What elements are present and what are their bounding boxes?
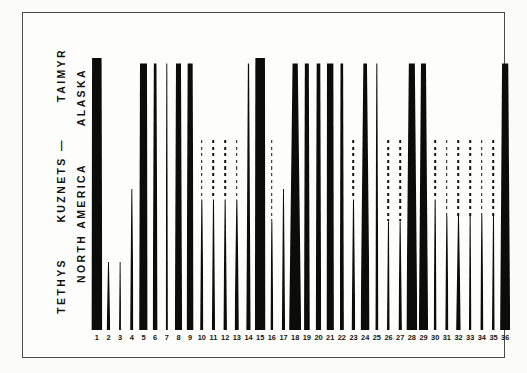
x-axis-tick: 36: [501, 333, 509, 342]
abundance-wedge: [500, 63, 510, 330]
region-label-sub-2: ALASKA: [75, 68, 87, 126]
x-axis-tick: 6: [153, 333, 157, 342]
x-axis-tick: 24: [361, 333, 369, 342]
inferred-range-dashed: [271, 140, 273, 222]
inferred-range-dashed: [446, 140, 448, 216]
range-bar: [91, 58, 103, 330]
x-axis-tick: 34: [478, 333, 486, 342]
inferred-range-dashed: [201, 140, 203, 200]
inferred-range-dashed: [458, 140, 460, 216]
range-bar: [184, 58, 196, 330]
region-label-1: TETHYS: [55, 258, 67, 314]
abundance-wedge: [107, 262, 111, 330]
abundance-wedge: [375, 63, 378, 330]
x-axis-tick: 19: [303, 333, 311, 342]
range-bar: [418, 58, 430, 330]
abundance-wedge: [270, 221, 273, 330]
x-axis-tick: 35: [489, 333, 497, 342]
label-column-secondary: NORTH AMERICAALASKA: [71, 13, 91, 357]
inferred-range-dashed: [236, 140, 238, 200]
abundance-wedge: [212, 199, 215, 330]
range-bar: [208, 58, 220, 330]
abundance-wedge: [139, 63, 148, 330]
x-axis-tick: 23: [349, 333, 357, 342]
range-bar: [243, 58, 255, 330]
abundance-wedge: [406, 63, 417, 330]
x-axis-tick-labels: 1234567891011121314151617181920212223242…: [91, 333, 511, 347]
abundance-wedge: [340, 63, 344, 330]
x-axis-tick: 25: [373, 333, 381, 342]
x-axis-tick: 18: [291, 333, 299, 342]
label-column-primary: TETHYSKUZNETS —TAIMYR: [51, 13, 71, 357]
x-axis-tick: 4: [130, 333, 134, 342]
range-bar: [278, 58, 290, 330]
range-bar: [126, 58, 138, 330]
abundance-wedge: [282, 189, 285, 330]
range-bar: [161, 58, 173, 330]
abundance-wedge: [223, 199, 227, 330]
figure-canvas: TETHYSKUZNETS —TAIMYR NORTH AMERICAALASK…: [0, 0, 527, 373]
x-axis-tick: 17: [279, 333, 287, 342]
x-axis-tick: 20: [314, 333, 322, 342]
range-bar: [289, 58, 301, 330]
abundance-wedge: [469, 216, 471, 330]
abundance-wedge: [398, 221, 401, 330]
range-bar: [371, 58, 383, 330]
abundance-wedge: [316, 63, 321, 330]
x-axis-tick: 5: [141, 333, 145, 342]
range-bar: [359, 58, 371, 330]
x-axis-tick: 2: [106, 333, 110, 342]
range-bar: [476, 58, 488, 330]
abundance-wedge: [119, 262, 121, 330]
range-bar: [406, 58, 418, 330]
x-axis-tick: 26: [384, 333, 392, 342]
range-bar: [103, 58, 115, 330]
range-bar: [394, 58, 406, 330]
inferred-range-dashed: [469, 140, 471, 216]
range-bar: [196, 58, 208, 330]
range-bar: [348, 58, 360, 330]
range-bar: [266, 58, 278, 330]
x-axis-tick: 13: [233, 333, 241, 342]
region-label-3: TAIMYR: [55, 48, 67, 102]
inferred-range-dashed: [493, 140, 495, 216]
range-bar: [114, 58, 126, 330]
abundance-wedge: [492, 216, 495, 330]
x-axis-tick: 32: [454, 333, 462, 342]
inferred-range-dashed: [481, 140, 483, 216]
range-bar: [383, 58, 395, 330]
abundance-wedge: [419, 63, 428, 330]
plot-area: [91, 58, 511, 330]
x-axis-tick: 30: [431, 333, 439, 342]
range-bar: [254, 58, 266, 330]
x-axis-tick: 28: [408, 333, 416, 342]
region-label-2: KUZNETS —: [55, 138, 67, 223]
abundance-wedge: [91, 58, 102, 330]
range-bar: [464, 58, 476, 330]
abundance-wedge: [361, 63, 370, 330]
range-bar: [219, 58, 231, 330]
inferred-range-dashed: [213, 140, 215, 200]
x-axis-tick: 33: [466, 333, 474, 342]
x-axis-tick: 11: [210, 333, 218, 342]
abundance-wedge: [175, 63, 182, 330]
abundance-wedge: [153, 63, 158, 330]
abundance-wedge: [326, 63, 333, 330]
range-bar: [313, 58, 325, 330]
range-bar: [138, 58, 150, 330]
abundance-wedge: [304, 63, 310, 330]
x-axis-tick: 15: [256, 333, 264, 342]
abundance-wedge: [255, 58, 266, 330]
x-axis-tick: 27: [396, 333, 404, 342]
inferred-range-dashed: [434, 140, 436, 200]
range-bar: [453, 58, 465, 330]
inferred-range-dashed: [353, 140, 355, 200]
range-bar: [429, 58, 441, 330]
range-bar: [324, 58, 336, 330]
abundance-wedge: [434, 199, 437, 330]
x-axis-tick: 31: [443, 333, 451, 342]
x-axis-tick: 10: [198, 333, 206, 342]
x-axis-tick: 1: [95, 333, 99, 342]
abundance-wedge: [246, 63, 250, 330]
x-axis-tick: 3: [118, 333, 122, 342]
